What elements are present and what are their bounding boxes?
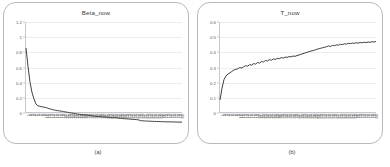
y-tick-mark: [23, 97, 25, 98]
y-tick-mark: [23, 37, 25, 38]
y-tick-label: 0.4: [210, 50, 216, 55]
plot-wrap-t-now: 00.10.20.30.40.50.6 12345678910111213141…: [220, 22, 376, 113]
panel-a: Beta_now 00.20.40.60.811.2 1234567891011…: [3, 2, 193, 167]
y-tick-mark: [23, 22, 25, 23]
y-tick-mark: [217, 82, 219, 83]
y-tick-label: 1: [20, 35, 22, 40]
data-series-polyline: [220, 42, 376, 101]
y-tick-label: 0.1: [210, 95, 216, 100]
y-tick-mark: [217, 113, 219, 114]
y-tick-label: 0.2: [16, 95, 22, 100]
x-tick-label: 80: [375, 114, 379, 118]
y-tick-mark: [23, 82, 25, 83]
x-axis-labels-t-now: 1234567891011121314151617181920212223242…: [220, 113, 376, 141]
y-tick-label: 0.6: [16, 65, 22, 70]
y-axis-labels-beta-now: 00.20.40.60.811.2: [5, 22, 24, 113]
y-tick-mark: [217, 37, 219, 38]
y-tick-mark: [23, 67, 25, 68]
x-axis-labels-beta-now: 1234567891011121314151617181920212223242…: [26, 113, 182, 141]
y-tick-mark: [23, 113, 25, 114]
series-line-beta-now: [26, 22, 182, 167]
x-tick-label: 80: [181, 114, 185, 118]
data-series-polyline: [26, 48, 182, 122]
plot-area-beta-now: [26, 22, 182, 113]
y-axis-labels-t-now: 00.10.20.30.40.50.6: [199, 22, 218, 113]
caption-a: (a): [3, 149, 193, 155]
y-tick-label: 1.2: [16, 20, 22, 25]
y-tick-label: 0.6: [210, 20, 216, 25]
caption-b: (b): [197, 149, 387, 155]
y-tick-label: 0.8: [16, 50, 22, 55]
chart-frame-beta-now: Beta_now 00.20.40.60.811.2 1234567891011…: [3, 2, 189, 144]
chart-title-t-now: T_now: [198, 9, 382, 16]
chart-frame-t-now: T_now 00.10.20.30.40.50.6 12345678910111…: [197, 2, 383, 144]
y-tick-label: 0.3: [210, 65, 216, 70]
series-line-t-now: [220, 22, 376, 167]
y-tick-mark: [217, 97, 219, 98]
plot-area-t-now: [220, 22, 376, 113]
y-tick-mark: [217, 67, 219, 68]
y-tick-mark: [217, 22, 219, 23]
y-tick-mark: [23, 52, 25, 53]
y-tick-label: 0: [214, 111, 216, 116]
panel-b: T_now 00.10.20.30.40.50.6 12345678910111…: [197, 2, 387, 167]
y-tick-label: 0.2: [210, 80, 216, 85]
figure-two-panel: Beta_now 00.20.40.60.811.2 1234567891011…: [0, 0, 390, 167]
plot-wrap-beta-now: 00.20.40.60.811.2 1234567891011121314151…: [26, 22, 182, 113]
y-tick-label: 0.5: [210, 35, 216, 40]
chart-title-beta-now: Beta_now: [4, 9, 188, 16]
y-tick-label: 0.4: [16, 80, 22, 85]
y-tick-mark: [217, 52, 219, 53]
y-tick-label: 0: [20, 111, 22, 116]
